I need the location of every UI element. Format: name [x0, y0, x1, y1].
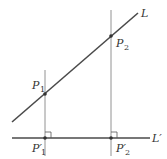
line-L: [12, 13, 138, 122]
point-P2: [109, 34, 113, 38]
projection-diagram: L L′ P 1 P 2 P′ 1 P′ 2: [0, 0, 167, 159]
point-P1-prime: [43, 136, 47, 140]
label-P2-prime-sub: 2: [125, 148, 130, 157]
label-P1-prime-sub: 1: [41, 148, 46, 157]
label-P1-sub: 1: [40, 85, 45, 94]
label-L: L: [140, 7, 148, 20]
label-P2-sub: 2: [124, 43, 129, 52]
point-P2-prime: [109, 136, 113, 140]
label-P1: P: [31, 79, 40, 92]
label-P2: P: [115, 37, 124, 50]
label-L-prime: L′: [151, 132, 162, 145]
